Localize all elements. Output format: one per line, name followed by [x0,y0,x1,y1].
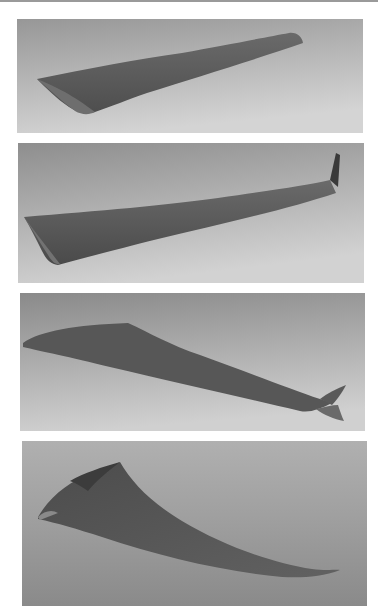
wing-render-panel-2 [18,143,364,283]
wing-render-panel-4 [22,441,367,606]
wing-render-panel-1 [17,19,363,133]
top-rule [0,0,378,2]
wing-1-render [17,19,363,133]
wing-4-render [22,441,367,606]
wing-2-render [18,143,364,283]
wing-3-render [20,293,365,431]
wing-render-panel-3 [20,293,365,431]
